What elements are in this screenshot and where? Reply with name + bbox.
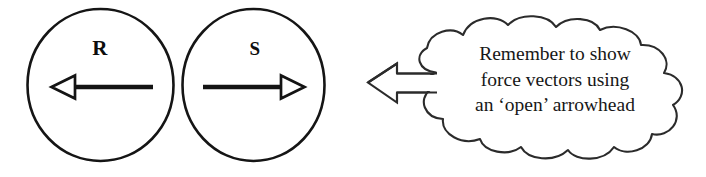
callout-text-line-2: force vectors using — [432, 67, 678, 93]
callout-text-line-1: Remember to show — [432, 41, 678, 67]
body-s-label: S — [155, 38, 355, 60]
callout-pointer-neck-mask — [397, 75, 436, 91]
callout-text-line-3: an ‘open’ arrowhead — [432, 92, 678, 118]
callout-text: Remember to show force vectors using an … — [432, 41, 678, 118]
figure-canvas: R S Remember to show force vectors using… — [0, 0, 706, 177]
